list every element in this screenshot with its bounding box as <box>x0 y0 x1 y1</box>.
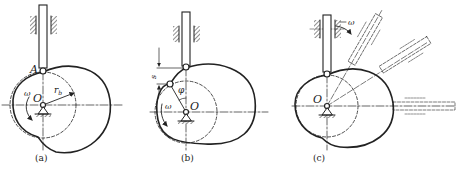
panel-c: ω O (c) <box>292 10 455 163</box>
follower-rod <box>39 5 47 68</box>
label-O: O <box>33 92 42 105</box>
label-O: O <box>313 93 322 106</box>
cam-profile <box>13 66 110 152</box>
label-neg-omega: ω <box>348 18 355 27</box>
follower-rod <box>182 12 190 66</box>
rotation-arrow <box>26 97 32 120</box>
label-phi: φ <box>178 85 185 95</box>
panel-b: s φ O ω (b) <box>149 12 268 163</box>
caption-c: (c) <box>313 153 325 163</box>
ray-30 <box>327 42 428 106</box>
panel-a: A O ω rb (a) <box>2 5 124 163</box>
label-rb: rb <box>54 85 62 96</box>
label-s: s <box>149 75 158 79</box>
cam-profile <box>157 64 256 144</box>
roller <box>324 71 330 77</box>
label-omega: ω <box>24 89 31 98</box>
angle-arc <box>179 98 186 100</box>
label-O: O <box>190 100 199 113</box>
label-A: A <box>29 63 38 76</box>
caption-a: (a) <box>35 153 47 163</box>
cam-profile <box>295 69 393 147</box>
roller-rotated <box>167 81 173 87</box>
cam-diagram-figure: A O ω rb (a) <box>0 0 464 176</box>
caption-b: (b) <box>181 153 194 163</box>
roller <box>40 68 46 74</box>
follower-ghost-30 <box>377 33 433 76</box>
label-omega: ω <box>165 102 172 111</box>
roller <box>183 64 189 70</box>
follower-rod <box>323 15 331 72</box>
